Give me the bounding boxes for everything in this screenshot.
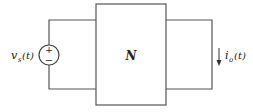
svg-text:(t): (t) [22, 50, 34, 61]
voltage-source-icon: + − [39, 45, 59, 66]
source-top-wire [49, 20, 96, 45]
source-bottom-wire [49, 65, 96, 89]
source-label: v s (t) [11, 49, 34, 64]
svg-text:v: v [11, 49, 18, 62]
svg-text:o: o [229, 56, 233, 64]
svg-text:i: i [225, 49, 229, 62]
output-loop-wire [166, 20, 212, 89]
current-arrow-icon [217, 48, 222, 66]
network-label: N [125, 49, 138, 63]
plus-sign: + [45, 45, 53, 55]
svg-text:(t): (t) [234, 50, 246, 61]
minus-sign: − [45, 55, 53, 66]
output-label: i o (t) [225, 49, 246, 64]
circuit-diagram: + − v s (t) N i o (t) [0, 0, 253, 112]
